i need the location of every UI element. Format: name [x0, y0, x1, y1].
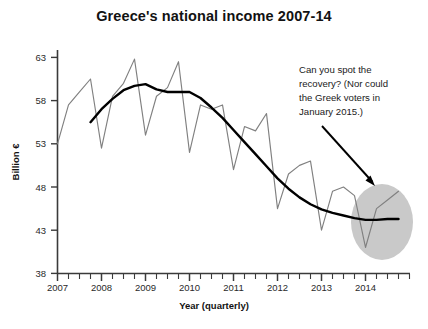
annotation-line-1: Can you spot the — [299, 64, 372, 75]
annotation-arrow — [322, 126, 375, 186]
annotation-line-3: the Greek voters in — [299, 92, 380, 103]
y-tick-53: 53 — [35, 138, 46, 149]
figure-container: Greece's national income 2007-14 63 58 — [0, 0, 428, 329]
y-tick-38: 38 — [35, 268, 46, 279]
y-tick-58: 58 — [35, 95, 46, 106]
x-tick-2013: 2013 — [311, 282, 332, 293]
x-axis-title: Year (quarterly) — [179, 300, 249, 311]
figure-caption-strip — [0, 317, 428, 329]
x-tick-2014: 2014 — [355, 282, 376, 293]
annotation-line-4: January 2015.) — [299, 106, 363, 117]
y-tick-63: 63 — [35, 52, 46, 63]
series-line-trend — [91, 84, 399, 220]
annotation-line-2: recovery? (Nor could — [299, 78, 388, 89]
x-tick-2012: 2012 — [267, 282, 288, 293]
x-tick-2009: 2009 — [135, 282, 156, 293]
x-tick-2008: 2008 — [91, 282, 112, 293]
chart-svg: 63 58 53 48 43 38 Billion € — [0, 0, 428, 329]
chart-plot-area: 63 58 53 48 43 38 Billion € — [0, 0, 428, 329]
x-tick-2010: 2010 — [179, 282, 200, 293]
y-axis-tick-labels: 63 58 53 48 43 38 — [35, 52, 46, 279]
x-tick-2011: 2011 — [223, 282, 243, 293]
annotation-text: Can you spot the recovery? (Nor could th… — [299, 64, 388, 117]
x-axis-minor-ticks — [69, 274, 410, 280]
y-axis-ticks — [51, 57, 58, 273]
x-axis-tick-labels: 2007 2008 2009 2010 2011 2012 2013 2014 — [47, 282, 376, 293]
x-tick-2007: 2007 — [47, 282, 68, 293]
y-axis-title: Billion € — [10, 143, 21, 181]
y-tick-43: 43 — [35, 225, 46, 236]
y-tick-48: 48 — [35, 182, 46, 193]
